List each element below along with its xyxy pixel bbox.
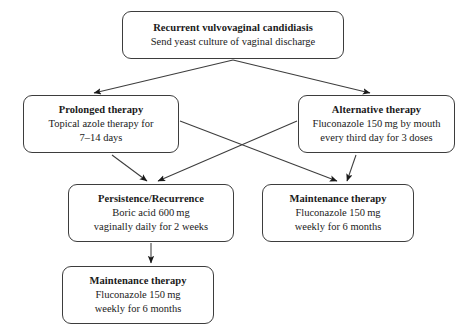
edge-root-to-prolonged <box>94 60 233 93</box>
node-root-title: Recurrent vulvovaginal candidiasis <box>153 21 313 35</box>
node-persistence-recurrence[interactable]: Persistence/Recurrence Boric acid 600 mg… <box>68 184 234 242</box>
flowchart: Recurrent vulvovaginal candidiasis Send … <box>0 0 466 333</box>
node-maintenance-bottom-line-2: weekly for 6 months <box>95 302 182 316</box>
node-maintenance-bottom-title: Maintenance therapy <box>90 274 187 288</box>
node-maintenance-therapy-right[interactable]: Maintenance therapy Fluconazole 150 mg w… <box>262 184 414 242</box>
node-maintenance-right-line-2: weekly for 6 months <box>295 220 382 234</box>
node-prolonged-therapy[interactable]: Prolonged therapy Topical azole therapy … <box>23 95 179 153</box>
node-maintenance-right-title: Maintenance therapy <box>290 192 387 206</box>
node-alternative-line-1: Fluconazole 150 mg by mouth <box>313 117 441 131</box>
edge-root-to-alternative <box>233 60 370 93</box>
node-root-line-1: Send yeast culture of vaginal discharge <box>151 35 316 49</box>
node-maintenance-right-line-1: Fluconazole 150 mg <box>295 206 380 220</box>
node-prolonged-title: Prolonged therapy <box>59 103 143 117</box>
node-alternative-title: Alternative therapy <box>332 103 421 117</box>
node-persistence-title: Persistence/Recurrence <box>98 192 204 206</box>
node-prolonged-line-1: Topical azole therapy for <box>48 117 153 131</box>
edge-alternative-to-maintenance <box>347 155 356 181</box>
node-maintenance-therapy-bottom[interactable]: Maintenance therapy Fluconazole 150 mg w… <box>62 266 214 324</box>
node-alternative-therapy[interactable]: Alternative therapy Fluconazole 150 mg b… <box>298 95 455 153</box>
node-recurrent-vulvovaginal-candidiasis[interactable]: Recurrent vulvovaginal candidiasis Send … <box>122 11 344 59</box>
node-alternative-line-2: every third day for 3 doses <box>320 131 432 145</box>
node-maintenance-bottom-line-1: Fluconazole 150 mg <box>95 288 180 302</box>
node-persistence-line-1: Boric acid 600 mg <box>112 206 189 220</box>
node-persistence-line-2: vaginally daily for 2 weeks <box>94 220 208 234</box>
node-prolonged-line-2: 7–14 days <box>80 131 123 145</box>
edge-prolonged-to-persistence <box>112 155 147 181</box>
